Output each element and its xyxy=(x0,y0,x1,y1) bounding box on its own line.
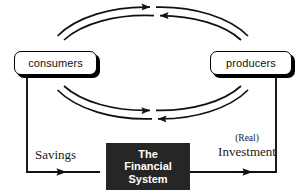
consumers-label: consumers xyxy=(28,57,83,69)
financial-system-node[interactable]: The Financial System xyxy=(106,143,190,190)
inner-ellipse-bottom-left-arc xyxy=(64,86,150,110)
outer-ellipse-bottom-left-arc xyxy=(58,90,153,119)
savings-label: Savings xyxy=(35,147,76,163)
financial-system-line-1: The xyxy=(138,148,158,161)
financial-system-line-2: Financial xyxy=(124,160,172,173)
financial-flow-diagram: consumers producers The Financial System… xyxy=(0,0,305,195)
outer-ellipse-top-left-arc xyxy=(58,7,151,36)
inner-ellipse-top-left-arc xyxy=(64,15,154,40)
investment-label: Investment xyxy=(213,144,281,159)
producers-node[interactable]: producers xyxy=(210,51,292,75)
investment-label-group: (Real) Investment xyxy=(213,133,281,159)
financial-system-line-3: System xyxy=(128,173,167,186)
producers-label: producers xyxy=(226,57,276,69)
consumers-node[interactable]: consumers xyxy=(14,51,97,75)
inner-ellipse-top-right-arc xyxy=(160,16,241,40)
real-qualifier-label: (Real) xyxy=(213,133,281,144)
inner-ellipse-bottom-right-arc xyxy=(156,86,241,110)
